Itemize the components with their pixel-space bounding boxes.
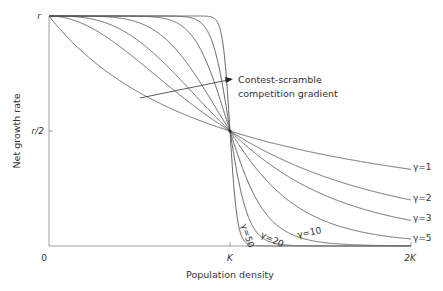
y-tick-label-r-half: r/2 (32, 126, 45, 136)
label-gamma-1: γ=1 (413, 162, 432, 172)
x-tick-label-k: K (227, 253, 234, 263)
label-gamma-5: γ=5 (413, 233, 432, 243)
curve-gamma-1 (49, 16, 411, 169)
label-gamma-3: γ=3 (413, 213, 432, 223)
y-axis-label: Net growth rate (11, 93, 22, 168)
curve-gamma-3 (49, 16, 411, 220)
annotation-line-1: Contest-scramble (238, 74, 322, 85)
label-gamma-2: γ=2 (413, 193, 432, 203)
label-gamma-10: γ=10 (296, 225, 322, 240)
annotation-arrowhead (225, 77, 233, 83)
curves-group (49, 16, 411, 246)
chart: r r/2 0 K 2K Population density Net grow… (0, 0, 443, 291)
convergence-point (228, 129, 231, 132)
annotation-line-2: competition gradient (238, 88, 338, 99)
y-tick-label-r: r (37, 11, 42, 21)
x-tick-label-0: 0 (41, 253, 47, 263)
curve-gamma-2 (49, 16, 411, 200)
annotation-arrow (140, 80, 228, 98)
x-axis-label: Population density (186, 269, 274, 280)
series-labels: γ=1 γ=2 γ=3 γ=5 γ=10 γ=20 γ=50 (239, 162, 431, 249)
x-tick-label-2k: 2K (404, 253, 417, 263)
